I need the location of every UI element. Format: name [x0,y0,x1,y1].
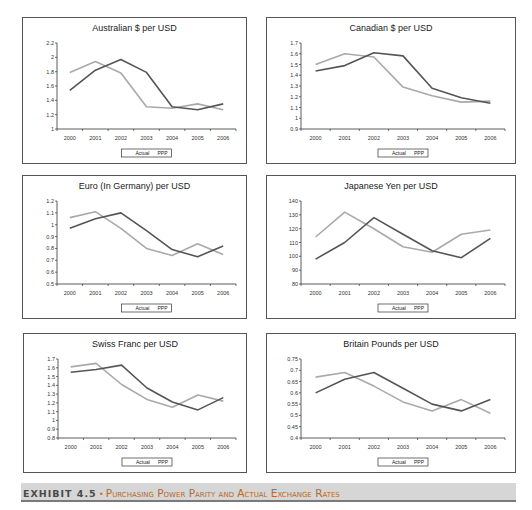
x-tick-label: 2003 [140,135,152,141]
line-chart: 0.80.911.11.21.31.41.51.61.7200020012002… [24,334,246,472]
y-tick-label: 1.7 [290,40,298,46]
x-tick-label: 2005 [455,290,467,296]
exhibit-caption: EXHIBIT 4.5•Purchasing Power Parity and … [21,483,516,502]
y-tick-label: 1.1 [47,409,55,415]
legend-actual: Actual [136,459,150,465]
x-tick-label: 2006 [484,444,496,450]
series-actual [316,373,491,411]
legend-ppp: PPP [158,150,169,156]
line-chart: 8090100110120130140200020012002200320042… [267,176,515,318]
y-tick-label: 1.4 [290,72,298,78]
y-tick-label: 0.6 [46,269,54,275]
legend-actual: Actual [392,305,406,311]
y-tick-label: 130 [289,212,298,218]
y-tick-label: 2 [51,54,54,60]
x-tick-label: 2004 [166,444,178,450]
legend-ppp: PPP [158,459,169,465]
y-tick-label: 100 [289,253,298,259]
legend-ppp: PPP [158,305,169,311]
series-ppp [70,212,223,256]
x-tick-label: 2005 [192,135,204,141]
y-tick-label: 2.2 [46,40,54,46]
y-tick-label: 1 [52,417,55,423]
legend-actual: Actual [392,150,406,156]
x-tick-label: 2001 [339,290,351,296]
x-tick-label: 2004 [426,135,438,141]
y-tick-label: 0.75 [287,356,298,362]
x-tick-label: 2000 [309,290,321,296]
series-ppp [70,62,223,110]
legend-ppp: PPP [414,150,425,156]
x-tick-label: 2000 [309,444,321,450]
exhibit-label: EXHIBIT 4.5 [23,488,97,499]
y-tick-label: 1.2 [290,94,298,100]
y-tick-label: 1.6 [47,365,55,371]
x-tick-label: 2002 [368,290,380,296]
x-tick-label: 2006 [217,444,229,450]
x-tick-label: 2000 [65,444,77,450]
y-tick-label: 1.6 [46,83,54,89]
legend-ppp: PPP [414,459,425,465]
y-tick-label: 0.6 [290,390,298,396]
y-tick-label: 1.2 [46,198,54,204]
chart-panel-canadian-dollar: Canadian $ per USD 0.911.11.21.31.41.51.… [266,17,516,164]
x-tick-label: 2000 [64,290,76,296]
y-tick-label: 1.2 [47,400,55,406]
x-tick-label: 2001 [339,444,351,450]
y-tick-label: 1.5 [290,62,298,68]
y-tick-label: 1.5 [47,374,55,380]
x-tick-label: 2005 [192,444,204,450]
series-ppp [316,373,491,414]
y-tick-label: 1.4 [46,97,54,103]
x-tick-label: 2003 [397,444,409,450]
chart-panel-australian-dollar: Australian $ per USD 11.21.41.61.822.220… [22,17,247,164]
line-chart: 0.40.450.50.550.60.650.70.75200020012002… [267,334,515,472]
x-tick-label: 2001 [89,135,101,141]
x-tick-label: 2004 [426,290,438,296]
y-tick-label: 0.7 [290,367,298,373]
y-tick-label: 0.45 [287,424,298,430]
series-actual [71,365,224,410]
x-tick-label: 2002 [115,290,127,296]
chart-panel-swiss-franc: Swiss Franc per USD 0.80.911.11.21.31.41… [23,333,247,473]
x-tick-label: 2003 [397,290,409,296]
x-tick-label: 2001 [339,135,351,141]
series-ppp [316,212,491,252]
x-tick-label: 2002 [368,135,380,141]
x-tick-label: 2001 [90,444,102,450]
chart-panel-britain-pounds: Britain Pounds per USD 0.40.450.50.550.6… [266,333,516,473]
y-tick-label: 1.7 [47,356,55,362]
legend-actual: Actual [136,305,150,311]
y-tick-label: 0.5 [46,281,54,287]
y-tick-label: 1.4 [47,382,55,388]
y-tick-label: 120 [289,226,298,232]
x-tick-label: 2003 [140,290,152,296]
x-tick-label: 2004 [166,135,178,141]
line-chart: 0.911.11.21.31.41.51.61.7200020012002200… [267,18,515,163]
series-actual [316,53,491,103]
y-tick-label: 0.5 [290,412,298,418]
y-tick-label: 1.2 [46,112,54,118]
y-tick-label: 0.9 [290,126,298,132]
x-tick-label: 2003 [397,135,409,141]
series-ppp [316,54,491,102]
x-tick-label: 2004 [166,290,178,296]
series-actual [70,213,223,257]
legend-actual: Actual [136,150,150,156]
y-tick-label: 1 [295,115,298,121]
x-tick-label: 2001 [89,290,101,296]
x-tick-label: 2005 [192,290,204,296]
x-tick-label: 2002 [115,135,127,141]
y-tick-label: 140 [289,198,298,204]
series-actual [70,60,223,110]
x-tick-label: 2000 [64,135,76,141]
y-tick-label: 1.1 [46,210,54,216]
y-tick-label: 1.3 [47,391,55,397]
y-tick-label: 0.65 [287,379,298,385]
y-tick-label: 80 [292,281,298,287]
y-tick-label: 0.8 [46,245,54,251]
exhibit-title: Purchasing Power Parity and Actual Excha… [106,487,340,499]
x-tick-label: 2002 [115,444,127,450]
y-tick-label: 90 [292,267,298,273]
y-tick-label: 1.1 [290,105,298,111]
